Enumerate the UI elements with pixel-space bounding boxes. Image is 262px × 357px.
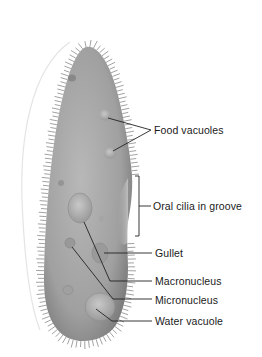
label-food-vacuoles: Food vacuoles (154, 124, 224, 136)
food-vacuole-1 (99, 110, 111, 121)
label-macronucleus: Macronucleus (155, 275, 222, 287)
macronucleus-shape (68, 193, 92, 223)
label-micronucleus: Micronucleus (155, 294, 218, 306)
vacuole-spot-low (63, 286, 73, 295)
oral-cilia-bracket (135, 176, 139, 236)
label-water-vacuole: Water vacuole (155, 315, 223, 327)
diagram-canvas (0, 0, 262, 357)
food-vacuole-2 (104, 148, 116, 159)
water-vacuole-shape (85, 293, 115, 321)
label-oral-cilia: Oral cilia in groove (153, 200, 242, 212)
vacuole-spot-top (68, 75, 76, 82)
paramecium-diagram: Food vacuoles Oral cilia in groove Gulle… (0, 0, 262, 357)
vacuole-spot-left (58, 180, 64, 186)
micronucleus-shape (65, 238, 75, 248)
label-gullet: Gullet (155, 247, 183, 259)
vacuole-spot-mid (99, 216, 105, 222)
